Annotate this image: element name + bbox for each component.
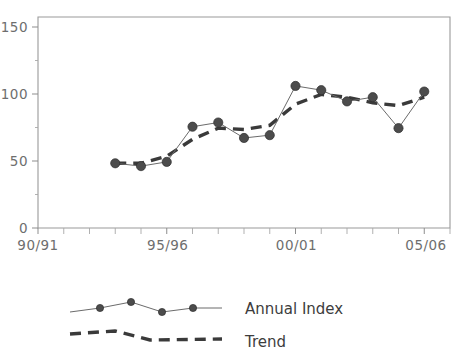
series-trend bbox=[115, 94, 424, 163]
x-axis-ticks bbox=[38, 228, 450, 234]
legend-label-annual-index: Annual Index bbox=[245, 300, 343, 318]
y-axis-ticks bbox=[32, 27, 38, 228]
data-point bbox=[162, 157, 171, 166]
line-chart: 150 100 50 0 90/91 95/96 00/01 05/06 Ann… bbox=[0, 0, 470, 354]
chart-figure: 150 100 50 0 90/91 95/96 00/01 05/06 Ann… bbox=[0, 0, 470, 354]
data-point bbox=[420, 87, 429, 96]
x-axis-label-9596: 95/96 bbox=[147, 237, 188, 253]
legend-marker-4 bbox=[189, 304, 196, 311]
chart-legend: Annual Index Trend bbox=[70, 298, 343, 351]
x-axis-label-9091: 90/91 bbox=[17, 237, 58, 253]
data-point bbox=[136, 162, 145, 171]
y-axis-label-50: 50 bbox=[10, 153, 28, 169]
legend-marker-2 bbox=[127, 298, 134, 305]
data-point bbox=[214, 118, 223, 127]
data-point bbox=[291, 81, 300, 90]
legend-marker-1 bbox=[96, 304, 103, 311]
legend-sample-trend-line bbox=[70, 331, 222, 340]
data-point bbox=[188, 122, 197, 131]
data-point bbox=[394, 124, 403, 133]
x-axis-label-0001: 00/01 bbox=[276, 237, 317, 253]
legend-marker-3 bbox=[158, 308, 165, 315]
data-point bbox=[342, 97, 351, 106]
data-point bbox=[111, 159, 120, 168]
data-point bbox=[317, 86, 326, 95]
y-axis-label-0: 0 bbox=[19, 220, 28, 236]
data-point bbox=[239, 133, 248, 142]
y-axis-label-100: 100 bbox=[1, 86, 28, 102]
legend-sample-annual-index-line bbox=[70, 302, 222, 312]
x-axis-label-0506: 05/06 bbox=[405, 237, 446, 253]
data-point bbox=[368, 93, 377, 102]
data-point bbox=[265, 131, 274, 140]
legend-label-trend: Trend bbox=[244, 333, 286, 351]
y-axis-label-150: 150 bbox=[1, 19, 28, 35]
plot-frame bbox=[38, 17, 450, 228]
